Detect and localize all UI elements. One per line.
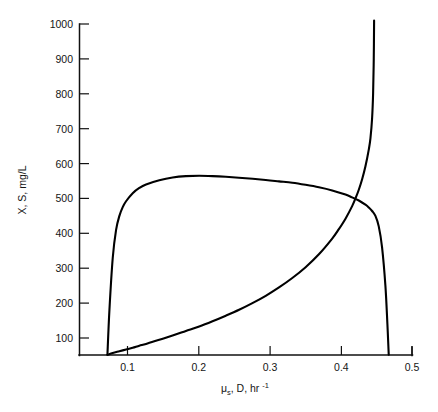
x-axis-title-middle: , D, hr xyxy=(231,382,260,394)
y-tick-label-800: 800 xyxy=(55,88,73,100)
y-tick-label-300: 300 xyxy=(55,262,73,274)
y-tick-label-1000: 1000 xyxy=(50,18,74,30)
y-axis-title: X, S, mg/L xyxy=(16,165,28,214)
y-tick-label-200: 200 xyxy=(55,297,73,309)
y-tick-label-100: 100 xyxy=(55,332,73,344)
x-tick-label-0.4: 0.4 xyxy=(334,361,349,373)
x-tick-label-0.3: 0.3 xyxy=(263,361,278,373)
chart-figure: 1000 900 800 700 600 500 400 300 200 100… xyxy=(0,0,438,412)
x-tick-label-0.2: 0.2 xyxy=(191,361,206,373)
y-tick-label-400: 400 xyxy=(55,227,73,239)
y-tick-label-700: 700 xyxy=(55,123,73,135)
y-tick-label-900: 900 xyxy=(55,53,73,65)
y-tick-label-600: 600 xyxy=(55,158,73,170)
x-tick-label-0.1: 0.1 xyxy=(120,361,135,373)
x-tick-label-0.5: 0.5 xyxy=(405,361,420,373)
x-axis-title-superscript: -1 xyxy=(262,381,269,390)
y-tick-label-500: 500 xyxy=(55,192,73,204)
